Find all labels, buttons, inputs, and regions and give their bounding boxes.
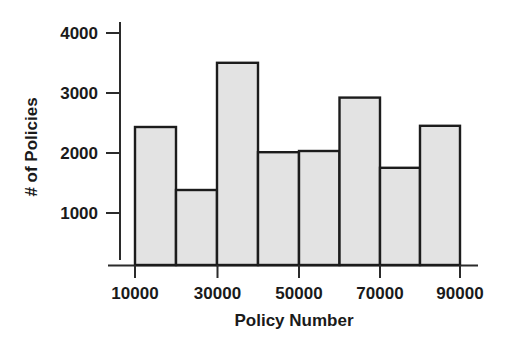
y-tick-label-1000: 1000: [60, 204, 98, 223]
bar-bin-60000-70000: [340, 98, 381, 265]
bar-bin-80000-90000: [420, 126, 460, 265]
chart-canvas: 4000 3000 2000 1000 # of Policies: [0, 0, 508, 349]
y-axis-title: # of Policies: [22, 97, 41, 196]
x-tick-label-70000: 70000: [356, 284, 403, 303]
x-tick-label-10000: 10000: [111, 284, 158, 303]
bar-bin-10000-20000: [135, 127, 176, 265]
bar-bin-20000-30000: [176, 190, 217, 265]
y-tick-label-2000: 2000: [60, 144, 98, 163]
y-tick-label-3000: 3000: [60, 84, 98, 103]
bar-bin-70000-80000: [380, 168, 420, 265]
bar-bin-40000-50000: [258, 152, 299, 265]
bar-bin-50000-60000: [299, 151, 340, 265]
bar-bin-30000-40000: [217, 63, 258, 265]
x-tick-label-30000: 30000: [194, 284, 241, 303]
x-tick-label-50000: 50000: [275, 284, 322, 303]
histogram-chart: 4000 3000 2000 1000 # of Policies: [0, 0, 508, 349]
y-tick-label-4000: 4000: [60, 24, 98, 43]
x-tick-label-90000: 90000: [436, 284, 483, 303]
x-axis-title: Policy Number: [234, 311, 353, 330]
